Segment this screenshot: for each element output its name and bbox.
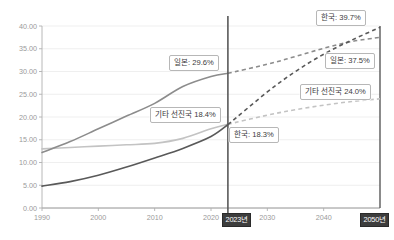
svg-text:2000: 2000 [90, 213, 106, 222]
svg-text:30.00: 30.00 [19, 67, 37, 76]
chart-figure: 0.005.0010.0015.0020.0025.0030.0035.0040… [0, 0, 394, 240]
svg-text:2020: 2020 [203, 213, 219, 222]
svg-text:2040: 2040 [316, 213, 332, 222]
y-axis-tick-labels: 0.005.0010.0015.0020.0025.0030.0035.0040… [19, 22, 37, 213]
svg-text:10.00: 10.00 [19, 158, 37, 167]
svg-text:0.00: 0.00 [23, 204, 37, 213]
svg-text:2030: 2030 [259, 213, 275, 222]
x-axis-highlight-2023: 2023년 [222, 213, 251, 227]
callout-other-2050: 기타 선진국 24.0% [300, 84, 371, 100]
callout-japan-2023: 일본: 29.6% [169, 55, 219, 71]
svg-text:2010: 2010 [147, 213, 163, 222]
svg-text:15.00: 15.00 [19, 135, 37, 144]
svg-text:25.00: 25.00 [19, 90, 37, 99]
callout-other-2023: 기타 선진국 18.4% [150, 107, 221, 123]
svg-text:1990: 1990 [34, 213, 50, 222]
x-axis-highlight-2050: 2050년 [360, 213, 389, 227]
svg-text:35.00: 35.00 [19, 44, 37, 53]
svg-text:5.00: 5.00 [23, 181, 37, 190]
callout-korea-2023: 한국: 18.3% [229, 127, 279, 143]
svg-text:40.00: 40.00 [19, 22, 37, 31]
svg-text:20.00: 20.00 [19, 113, 37, 122]
callout-korea-2050: 한국: 39.7% [316, 10, 366, 26]
x-axis-tick-labels: 199020002010202020302040 [34, 213, 332, 222]
callout-japan-2050: 일본: 37.5% [325, 53, 375, 69]
